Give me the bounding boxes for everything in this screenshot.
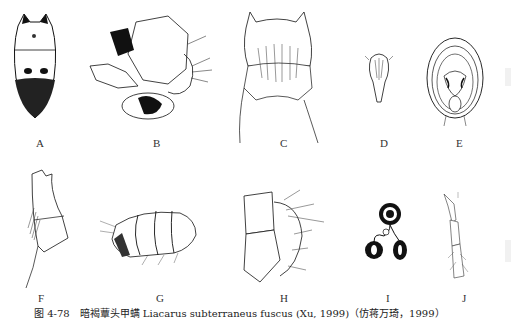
- panel-label-g: G: [156, 292, 164, 304]
- panel-f-figure: [20, 168, 80, 294]
- panel-label-j: J: [462, 292, 466, 304]
- panel-label-f: F: [38, 292, 44, 304]
- panel-label-h: H: [280, 292, 288, 304]
- scan-artifact: [505, 240, 511, 262]
- panel-label-i: I: [386, 292, 390, 304]
- panel-label-a: A: [36, 137, 44, 149]
- panel-g-figure: [100, 205, 200, 271]
- panel-label-c: C: [280, 137, 287, 149]
- panel-label-e: E: [456, 137, 463, 149]
- scan-artifact: [505, 68, 511, 86]
- panel-h-figure: [240, 190, 330, 294]
- panel-b-figure: [88, 14, 218, 123]
- panel-j-figure: [440, 192, 470, 286]
- panel-i-figure: [364, 202, 410, 268]
- panel-label-d: D: [380, 137, 388, 149]
- panel-e-figure: [424, 30, 486, 134]
- panel-label-b: B: [153, 137, 160, 149]
- panel-a-figure: [10, 8, 60, 124]
- panel-d-figure: [365, 50, 393, 110]
- panel-c-figure: [238, 8, 318, 147]
- figure-caption: 图 4-78 暗褐蕈头甲螨 Liacarus subterraneus fusc…: [34, 305, 445, 320]
